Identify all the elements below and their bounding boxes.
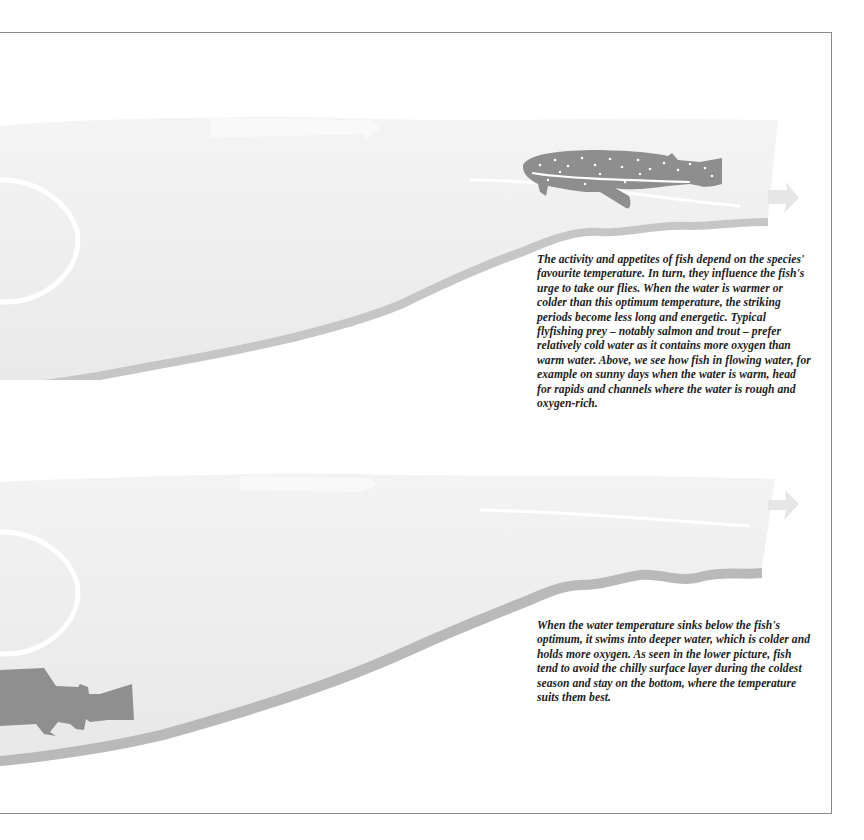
illustration-cold-water	[0, 440, 864, 770]
caption-warm-water: The activity and appetites of fish depen…	[537, 253, 812, 411]
cold-water-diagram	[0, 440, 864, 770]
current-arrow-exit	[768, 182, 799, 213]
frame-top-border	[0, 32, 831, 33]
frame-bottom-border	[0, 813, 832, 814]
caption-cold-water: When the water temperature sinks below t…	[537, 619, 812, 705]
current-arrow	[240, 476, 378, 492]
